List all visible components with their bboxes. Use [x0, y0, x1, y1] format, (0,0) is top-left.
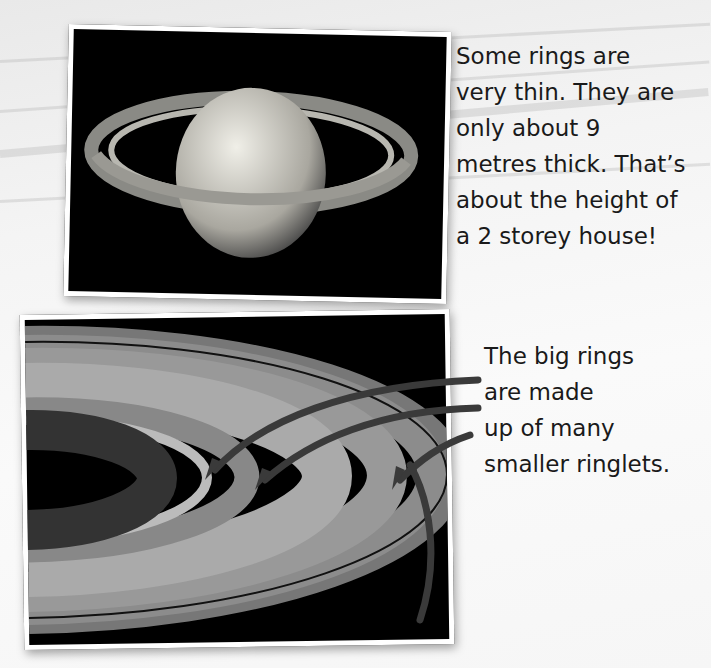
caption-thin-rings: Some rings are very thin. They are only …	[456, 38, 706, 254]
caption-ringlets: The big rings are made up of many smalle…	[484, 338, 704, 482]
